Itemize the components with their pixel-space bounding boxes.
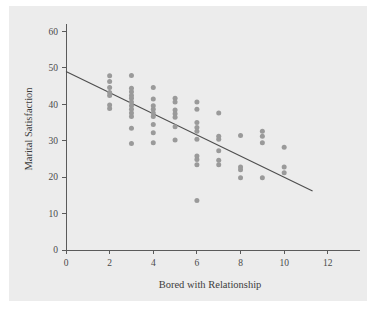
- data-point: [216, 137, 221, 142]
- data-point: [194, 107, 199, 112]
- data-point: [129, 126, 134, 131]
- data-point: [107, 73, 112, 78]
- data-point: [282, 145, 287, 150]
- data-point: [194, 129, 199, 134]
- data-point: [216, 110, 221, 115]
- data-point: [151, 122, 156, 127]
- chart-panel: 0102030405060024681012Bored with Relatio…: [9, 6, 367, 301]
- y-tick-label: 60: [49, 27, 59, 37]
- x-tick-label: 8: [238, 258, 243, 268]
- data-point: [216, 162, 221, 167]
- data-point: [107, 106, 112, 111]
- data-point: [151, 114, 156, 119]
- data-point: [194, 157, 199, 162]
- data-point: [151, 85, 156, 90]
- data-point: [107, 85, 112, 90]
- data-point: [107, 79, 112, 84]
- y-tick-label: 20: [49, 172, 59, 182]
- y-tick-label: 10: [49, 209, 59, 219]
- data-point: [216, 148, 221, 153]
- y-tick-label: 50: [49, 63, 59, 73]
- y-tick-label: 40: [49, 100, 59, 110]
- x-axis-title: Bored with Relationship: [159, 279, 262, 290]
- x-tick-label: 2: [107, 258, 112, 268]
- data-point: [173, 137, 178, 142]
- data-point: [238, 175, 243, 180]
- data-point: [173, 100, 178, 105]
- data-point: [151, 97, 156, 102]
- data-point: [173, 124, 178, 129]
- data-point: [260, 129, 265, 134]
- regression-line: [66, 71, 313, 191]
- data-point: [194, 120, 199, 125]
- data-point: [238, 167, 243, 172]
- data-point: [129, 141, 134, 146]
- data-point: [260, 175, 265, 180]
- data-point: [260, 134, 265, 139]
- scatter-plot: 0102030405060024681012Bored with Relatio…: [9, 6, 367, 301]
- x-tick-label: 4: [151, 258, 156, 268]
- data-point: [216, 158, 221, 163]
- x-tick-label: 6: [195, 258, 200, 268]
- x-tick-label: 12: [323, 258, 333, 268]
- data-point: [282, 170, 287, 175]
- data-point: [194, 100, 199, 105]
- data-point: [282, 164, 287, 169]
- data-point: [107, 93, 112, 98]
- data-point: [151, 140, 156, 145]
- data-point: [238, 133, 243, 138]
- data-points-group: [107, 73, 287, 203]
- data-point: [260, 140, 265, 145]
- figure-root: 0102030405060024681012Bored with Relatio…: [0, 0, 376, 315]
- data-point: [151, 130, 156, 135]
- data-point: [129, 73, 134, 78]
- data-point: [129, 114, 134, 119]
- y-tick-label: 0: [53, 245, 58, 255]
- data-point: [194, 198, 199, 203]
- data-point: [173, 115, 178, 120]
- x-tick-label: 0: [64, 258, 69, 268]
- data-point: [194, 162, 199, 167]
- x-tick-label: 10: [279, 258, 289, 268]
- y-axis-title: Marital Satisfaction: [23, 87, 34, 171]
- data-point: [194, 137, 199, 142]
- y-tick-label: 30: [49, 136, 59, 146]
